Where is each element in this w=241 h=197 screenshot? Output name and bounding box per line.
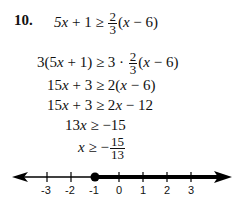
step-6: x ≥ −1513 — [78, 136, 126, 161]
step-1: 5x + 1 ≥ 23(x − 6) — [54, 11, 158, 36]
fraction: 23 — [108, 11, 117, 36]
step-1-lhs: 5x + 1 ≥ — [54, 14, 104, 30]
tick-label: -1 — [89, 184, 99, 196]
tick-label: -2 — [65, 184, 75, 196]
tick-label: -3 — [41, 184, 51, 196]
tick-label: 3 — [188, 184, 194, 196]
fraction: 23 — [129, 51, 138, 76]
step-2: 3(5x + 1) ≥ 3 · 23(x − 6) — [37, 51, 179, 76]
step-5: 13x ≥ −15 — [65, 117, 126, 134]
step-4: 15x + 3 ≥ 2x − 12 — [47, 97, 153, 114]
tick-label: 1 — [140, 184, 146, 196]
fraction: 1513 — [110, 136, 125, 161]
closed-point-icon — [91, 173, 100, 182]
tick-label: 2 — [164, 184, 170, 196]
step-3: 15x + 3 ≥ 2(x − 6) — [47, 77, 156, 94]
step-1-rhs: (x − 6) — [118, 14, 158, 30]
tick-label: 0 — [116, 184, 122, 196]
problem-number: 10. — [14, 12, 33, 29]
